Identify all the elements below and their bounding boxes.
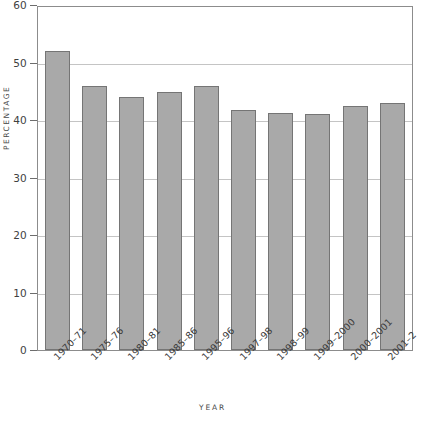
y-tick-label: 60 [0, 0, 27, 11]
plot-area [37, 6, 413, 351]
bar [231, 110, 256, 350]
y-tick-mark [30, 5, 37, 6]
y-tick-label: 30 [0, 173, 27, 184]
bar [82, 86, 107, 351]
x-axis-title: YEAR [0, 403, 425, 412]
bar [380, 103, 405, 350]
y-tick-mark [30, 63, 37, 64]
y-tick-mark [30, 293, 37, 294]
y-tick-label: 50 [0, 58, 27, 69]
y-tick-mark [30, 178, 37, 179]
cropped-title-remnant [90, 0, 330, 5]
bar [157, 92, 182, 350]
bar [45, 51, 70, 350]
bar [194, 86, 219, 350]
gridline [38, 64, 412, 65]
y-tick-label: 10 [0, 288, 27, 299]
y-tick-mark [30, 350, 37, 351]
bar [343, 106, 368, 350]
y-tick-label: 20 [0, 230, 27, 241]
y-tick-label: 0 [0, 345, 27, 356]
y-tick-mark [30, 235, 37, 236]
bar [305, 114, 330, 350]
bar [268, 113, 293, 350]
y-tick-mark [30, 120, 37, 121]
bar-chart: 0102030405060 PERCENTAGE 1970–711975–761… [0, 0, 425, 422]
y-axis-title: PERCENTAGE [2, 86, 11, 150]
bar [119, 97, 144, 350]
